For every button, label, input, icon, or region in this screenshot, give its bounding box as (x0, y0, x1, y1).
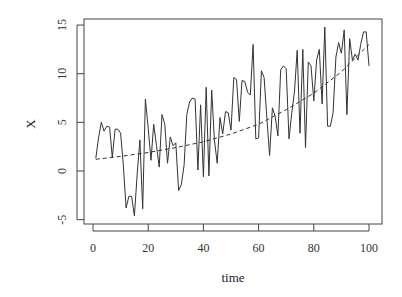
y-tick-label: 5 (55, 119, 69, 125)
x-tick-label: 40 (197, 241, 209, 255)
x-tick-label: 60 (253, 241, 265, 255)
y-tick-label: 0 (55, 168, 69, 174)
y-axis: -5051015 (55, 19, 84, 225)
x-tick-label: 80 (308, 241, 320, 255)
x-tick-label: 0 (90, 241, 96, 255)
x-axis: 020406080100 (90, 224, 378, 255)
x-tick-label: 100 (360, 241, 378, 255)
series-line-x (96, 27, 369, 216)
y-tick-label: 10 (55, 68, 69, 80)
y-tick-label: 15 (55, 19, 69, 31)
x-tick-label: 20 (142, 241, 154, 255)
time-series-chart: 020406080100 -5051015 time X (0, 0, 402, 297)
y-tick-label: -5 (55, 215, 69, 225)
x-axis-title: time (221, 270, 244, 285)
y-axis-title: X (23, 119, 38, 129)
